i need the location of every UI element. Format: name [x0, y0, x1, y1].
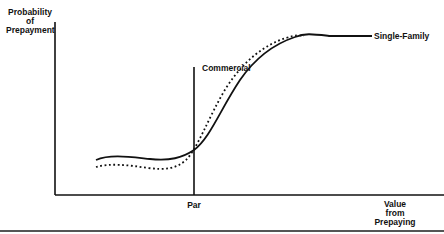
x-axis-label-line3: Prepaying — [372, 218, 418, 227]
single-family-label: Single-Family — [374, 32, 429, 41]
commercial-curve — [96, 35, 304, 168]
x-axis-label: Value from Prepaying — [372, 200, 418, 227]
commercial-label: Commercial — [202, 64, 251, 73]
single-family-curve — [96, 34, 372, 160]
y-axis-label-line3: Prepayment — [6, 26, 54, 35]
par-label: Par — [182, 201, 206, 210]
y-axis-label: Probability of Prepayment — [6, 8, 54, 35]
